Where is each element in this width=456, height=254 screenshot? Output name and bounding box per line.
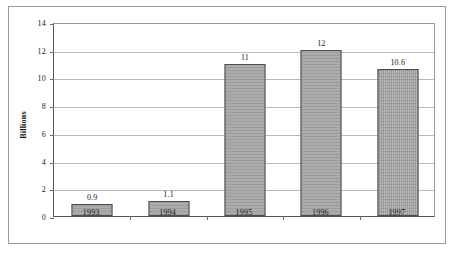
bar-slot: 0.9 [54,24,130,216]
y-axis-tick-label: 2 [42,185,46,194]
bar-slot: 1.1 [130,24,206,216]
bar[interactable] [301,50,342,216]
bar-value-label: 10.6 [390,58,405,67]
bar-slot: 12 [283,24,359,216]
plot-area: 0.91.1111210.6 [53,23,435,217]
x-axis-tick-label: 1994 [159,208,176,217]
bar-value-label: 0.9 [87,193,98,202]
x-axis-tick-label: 1995 [236,208,253,217]
y-axis-tick-label: 14 [38,19,46,28]
x-axis-tick [283,216,284,220]
x-axis-tick-label: 1993 [83,208,100,217]
y-axis-tick-label: 8 [42,102,46,111]
y-axis-tick-label: 12 [38,46,46,55]
bar-slot: 10.6 [360,24,436,216]
x-axis-tick [360,216,361,220]
bar-slot: 11 [207,24,283,216]
y-axis-tick-label: 4 [42,157,46,166]
bar[interactable] [224,64,265,216]
bar-value-label: 12 [317,39,325,48]
x-axis-tick-label: 1997 [388,208,405,217]
y-axis-tick-label: 10 [38,74,46,83]
bar-value-label: 1.1 [163,190,174,199]
y-axis-tick [50,218,54,219]
y-axis-tick-label: 0 [42,213,46,222]
x-axis-tick [207,216,208,220]
x-axis-tick [130,216,131,220]
bar-value-label: 11 [241,53,249,62]
bar[interactable] [377,69,418,216]
y-axis-tick-label: 6 [42,129,46,138]
x-axis-tick-label: 1996 [312,208,329,217]
y-axis-title: Billions [19,111,28,138]
chart-frame: Billions 02468101214 0.91.1111210.6 1993… [8,6,446,244]
